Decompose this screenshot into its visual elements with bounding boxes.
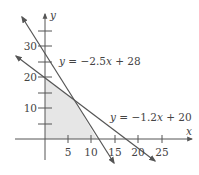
y-tick-label-30: 30 <box>24 40 37 52</box>
x-tick-label-10: 10 <box>84 146 97 158</box>
x-tick-label-25: 25 <box>155 146 168 158</box>
line2-annotation: y = −1.2x + 20 <box>109 111 192 123</box>
y-tick-label-10: 10 <box>24 102 37 114</box>
y-tick-label-20: 20 <box>24 71 37 83</box>
x-tick-label-20: 20 <box>131 146 144 158</box>
linear-programming-graph: y x 5 10 15 20 25 10 20 30 y = −2.5x + 2… <box>0 0 199 175</box>
x-tick-label-5: 5 <box>65 146 72 158</box>
x-axis-label: x <box>186 125 192 137</box>
x-tick-label-15: 15 <box>108 146 121 158</box>
feasible-region <box>45 77 97 139</box>
line1-annotation: y = −2.5x + 28 <box>58 55 141 67</box>
y-axis-label: y <box>49 9 57 21</box>
